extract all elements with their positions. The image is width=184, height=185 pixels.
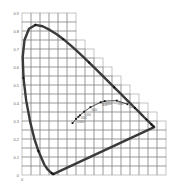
grid-cell (103, 157, 112, 166)
grid-cell (49, 148, 58, 157)
grid-cell (58, 148, 67, 157)
grid-cell (157, 157, 166, 166)
grid-cell (22, 130, 31, 139)
temperature-label: 6000 (81, 116, 87, 120)
temperature-label: 10000 (77, 120, 85, 124)
grid-cell (130, 121, 139, 130)
grid-cell (112, 166, 121, 175)
grid-cell (85, 130, 94, 139)
grid-cell (94, 85, 103, 94)
grid-cell (103, 85, 112, 94)
wavelength-marker (62, 38, 64, 40)
grid-cell (76, 139, 85, 148)
wavelength-marker (145, 118, 147, 120)
grid-cell (85, 94, 94, 103)
grid-cell (40, 139, 49, 148)
wavelength-marker (152, 125, 154, 127)
grid-cell (67, 22, 76, 31)
grid-cell (67, 58, 76, 67)
grid-cell (76, 94, 85, 103)
grid-cell (112, 76, 121, 85)
wavelength-marker (88, 61, 90, 63)
temperature-label: 5000 (85, 113, 91, 117)
temperature-marker (75, 118, 77, 120)
grid-cell (112, 148, 121, 157)
y-axis-labels: 00.10.20.30.40.50.60.70.80.9 (13, 11, 19, 178)
grid-cell (40, 130, 49, 139)
grid-cell (85, 85, 94, 94)
grid-cell (58, 67, 67, 76)
grid-lines (22, 13, 166, 175)
grid-cell (139, 166, 148, 175)
temperature-marker (100, 101, 102, 103)
grid-cell (76, 58, 85, 67)
y-tick-label: 0.4 (13, 101, 19, 106)
wavelength-marker (22, 77, 24, 79)
grid-cell (22, 157, 31, 166)
grid-cell (58, 49, 67, 58)
grid-cell (157, 139, 166, 148)
grid-cell (67, 139, 76, 148)
grid-cell (85, 76, 94, 85)
grid-cell (31, 31, 40, 40)
grid-cell (121, 166, 130, 175)
grid-cell (148, 166, 157, 175)
grid-cell (76, 103, 85, 112)
grid-cell (40, 40, 49, 49)
grid-cell (58, 13, 67, 22)
temperature-label: 1500 (128, 105, 134, 109)
grid-cell (67, 85, 76, 94)
grid-cell (31, 112, 40, 121)
grid-cell (31, 58, 40, 67)
temperature-marker (79, 114, 81, 116)
grid-cell (58, 94, 67, 103)
grid-cell (49, 58, 58, 67)
grid-cell (94, 76, 103, 85)
grid-cell (58, 121, 67, 130)
grid-cell (22, 166, 31, 175)
grid-cell (112, 112, 121, 121)
grid-cell (157, 130, 166, 139)
grid-cell (85, 49, 94, 58)
grid-cell (40, 76, 49, 85)
temperature-marker (78, 116, 80, 118)
grid-cell (148, 130, 157, 139)
grid-cell (49, 103, 58, 112)
grid-cell (94, 139, 103, 148)
temperature-marker (83, 111, 85, 113)
grid-cell (40, 94, 49, 103)
y-tick-label: 0 (17, 173, 20, 178)
grid-cell (94, 58, 103, 67)
y-tick-label: 0.6 (13, 65, 19, 70)
grid-cell (148, 148, 157, 157)
y-tick-label: 0.8 (13, 29, 19, 34)
y-tick-label: 0.9 (13, 11, 19, 16)
grid-cell (94, 112, 103, 121)
wavelength-marker (150, 123, 152, 125)
grid-cell (85, 139, 94, 148)
grid-cell (40, 58, 49, 67)
grid-cell (58, 76, 67, 85)
grid-cell (67, 130, 76, 139)
grid-cell (139, 121, 148, 130)
spectral-locus-markers (22, 24, 154, 175)
grid-cell (121, 148, 130, 157)
grid-cell (139, 157, 148, 166)
grid-cell (139, 139, 148, 148)
grid-cell (103, 67, 112, 76)
grid-cell (94, 157, 103, 166)
grid-cell (121, 85, 130, 94)
grid-cell (148, 112, 157, 121)
grid-cell (76, 130, 85, 139)
wavelength-marker (34, 24, 36, 26)
grid-cell (67, 148, 76, 157)
grid-cell (31, 76, 40, 85)
grid-cell (58, 103, 67, 112)
grid-cell (121, 112, 130, 121)
grid-cell (130, 166, 139, 175)
grid-cell (49, 49, 58, 58)
y-tick-label: 0.7 (13, 47, 19, 52)
grid-cell (40, 13, 49, 22)
grid-cell (67, 121, 76, 130)
grid-cell (85, 166, 94, 175)
